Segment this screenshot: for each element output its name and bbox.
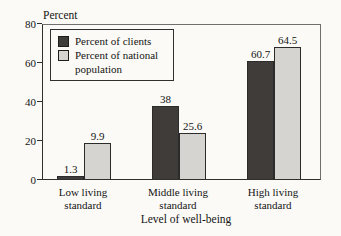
x-category-label: Middle living standard <box>136 186 220 211</box>
y-tick-label: 80 <box>0 18 36 30</box>
legend-item-clients: Percent of clients <box>58 34 169 48</box>
legend-label-national: Percent of national population <box>75 48 169 76</box>
bar-value-label: 25.6 <box>169 120 217 132</box>
y-tick-mark <box>37 62 42 63</box>
y-tick-mark <box>37 101 42 102</box>
legend-swatch-national-icon <box>58 50 69 61</box>
y-tick-mark <box>37 140 42 141</box>
y-tick-mark <box>37 23 42 24</box>
x-category-label: Low living standard <box>41 186 125 211</box>
legend-swatch-clients-icon <box>58 36 69 47</box>
y-tick-mark <box>37 179 42 180</box>
y-tick-label: 0 <box>0 174 36 186</box>
x-category-label: High living standard <box>231 186 315 211</box>
bar-clients <box>152 106 179 179</box>
bar-chart-figure: Percent 1.33860.79.925.664.5 Percent of … <box>0 0 341 236</box>
bar-clients <box>247 61 274 179</box>
x-axis-title: Level of well-being <box>141 213 232 225</box>
y-tick-label: 40 <box>0 96 36 108</box>
y-tick-label: 20 <box>0 135 36 147</box>
bar-clients <box>57 176 84 179</box>
bar-value-label: 9.9 <box>74 130 122 142</box>
legend: Percent of clients Percent of national p… <box>50 29 174 81</box>
y-tick-label: 60 <box>0 57 36 69</box>
bar-national <box>84 143 111 179</box>
bar-value-label: 38 <box>142 93 190 105</box>
legend-item-national: Percent of national population <box>58 48 169 76</box>
bar-national <box>274 47 301 179</box>
bar-value-label: 64.5 <box>264 34 312 46</box>
bar-national <box>179 133 206 179</box>
legend-label-clients: Percent of clients <box>75 34 151 48</box>
y-axis-title: Percent <box>43 9 77 22</box>
